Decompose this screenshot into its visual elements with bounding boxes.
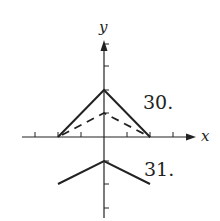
graph-30-dashed-curve xyxy=(62,113,150,137)
x-axis-arrow-icon xyxy=(186,134,196,141)
graph-31-label: 31. xyxy=(144,158,174,180)
graph-30-label: 30. xyxy=(143,91,173,113)
x-axis-label: x xyxy=(201,127,210,145)
y-axis-arrow-icon xyxy=(101,40,108,51)
y-axis-label: y xyxy=(98,18,108,36)
coordinate-diagram: x y 30. 31. xyxy=(0,0,220,221)
y-ticks xyxy=(104,44,109,208)
